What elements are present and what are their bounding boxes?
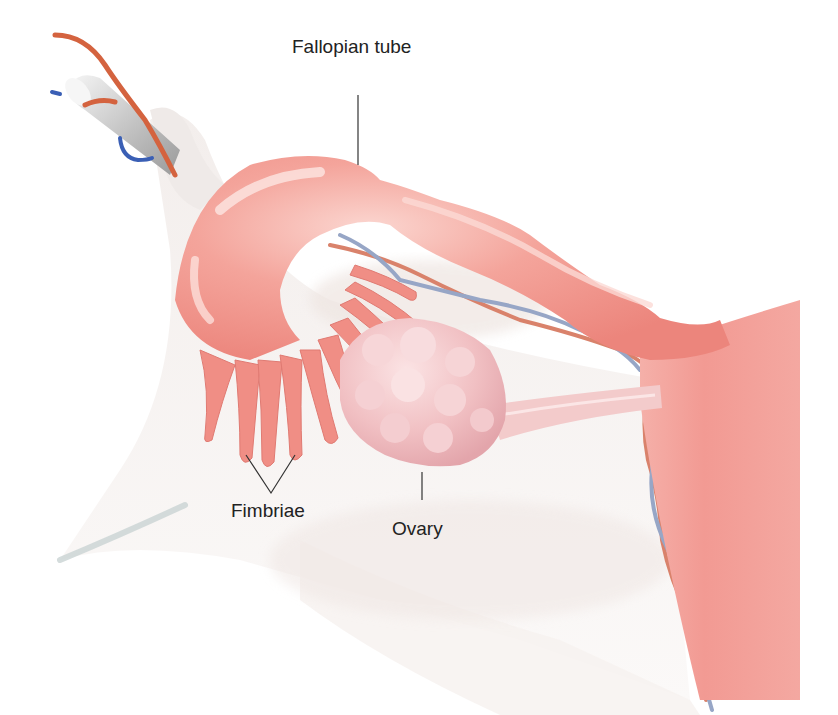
label-ovary: Ovary (392, 518, 443, 540)
suspensory-ligament-stump (52, 35, 180, 175)
anatomy-artwork (0, 0, 838, 715)
anatomy-illustration: Fallopian tube Fimbriae Ovary (0, 0, 838, 715)
label-fallopian-tube: Fallopian tube (292, 36, 411, 58)
label-fimbriae: Fimbriae (231, 500, 305, 522)
